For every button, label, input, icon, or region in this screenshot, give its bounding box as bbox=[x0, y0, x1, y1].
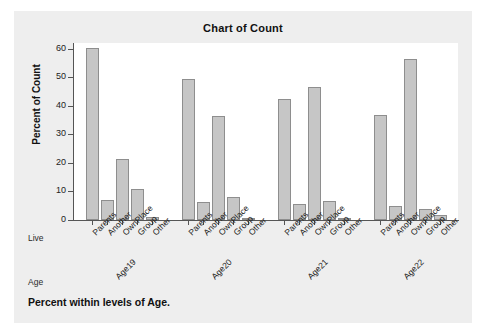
group-label: Age19 bbox=[114, 258, 138, 282]
x-tick bbox=[188, 221, 189, 225]
y-tick bbox=[68, 163, 73, 164]
y-tick-label-wrap: 10 bbox=[42, 186, 66, 195]
y-tick bbox=[68, 191, 73, 192]
y-tick-label: 30 bbox=[46, 129, 66, 138]
y-tick bbox=[68, 77, 73, 78]
y-tick-label: 50 bbox=[46, 72, 66, 81]
bar bbox=[374, 115, 387, 220]
group-label: Age22 bbox=[402, 258, 426, 282]
y-axis-line bbox=[73, 43, 74, 221]
y-tick-label-wrap: 50 bbox=[42, 72, 66, 81]
y-tick bbox=[68, 106, 73, 107]
y-tick-label: 20 bbox=[46, 158, 66, 167]
bar bbox=[86, 48, 99, 220]
bar bbox=[278, 99, 291, 220]
y-tick-label: 10 bbox=[46, 186, 66, 195]
y-tick-label: 0 bbox=[46, 215, 66, 224]
chart-card: Chart of Count Percent of Count 01020304… bbox=[14, 11, 472, 323]
bar bbox=[308, 87, 321, 220]
bar bbox=[404, 59, 417, 220]
page-title: Chart of Count bbox=[14, 22, 472, 34]
y-axis-title: Percent of Count bbox=[31, 45, 42, 165]
y-tick-label: 60 bbox=[46, 44, 66, 53]
y-tick-label: 40 bbox=[46, 101, 66, 110]
y-tick bbox=[68, 134, 73, 135]
chart-page: Chart of Count Percent of Count 01020304… bbox=[0, 0, 486, 335]
y-tick-label-wrap: 60 bbox=[42, 44, 66, 53]
y-tick-label-wrap: 0 bbox=[42, 215, 66, 224]
y-tick-label-wrap: 40 bbox=[42, 101, 66, 110]
x-tick bbox=[284, 221, 285, 225]
row-label-age: Age bbox=[28, 277, 43, 287]
bar bbox=[182, 79, 195, 220]
y-tick bbox=[68, 49, 73, 50]
y-tick-label-wrap: 20 bbox=[42, 158, 66, 167]
y-tick-label-wrap: 30 bbox=[42, 129, 66, 138]
plot-area bbox=[74, 43, 458, 220]
x-tick bbox=[92, 221, 93, 225]
row-label-live: Live bbox=[28, 233, 44, 243]
bars-container bbox=[74, 43, 458, 220]
y-tick bbox=[68, 220, 73, 221]
x-tick bbox=[380, 221, 381, 225]
footnote: Percent within levels of Age. bbox=[28, 296, 170, 308]
group-label: Age21 bbox=[306, 258, 330, 282]
group-label: Age20 bbox=[210, 258, 234, 282]
bar bbox=[212, 116, 225, 220]
